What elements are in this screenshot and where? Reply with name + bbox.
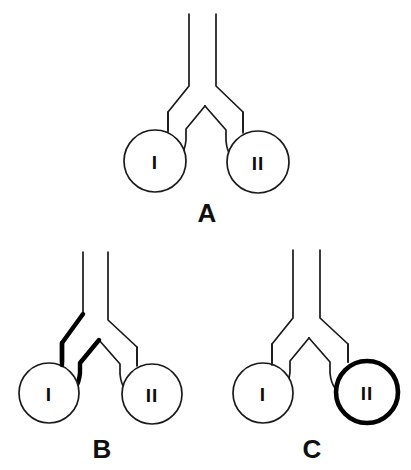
panel-a-label: A: [198, 198, 217, 228]
panel-c-left-outer-wall: [272, 250, 293, 363]
diagram-canvas: I II A I II B I II C: [0, 0, 411, 470]
panel-a: I II A: [124, 14, 289, 228]
panel-a-chamber-i-label: I: [152, 152, 158, 173]
panel-c: I II C: [233, 250, 398, 464]
panel-b: I II B: [19, 252, 182, 464]
panel-a-right-outer-wall: [216, 14, 243, 131]
panel-c-chamber-ii-label: II: [361, 383, 374, 404]
panel-a-left-inner-wall: [181, 106, 205, 155]
panel-c-right-outer-wall: [320, 250, 348, 362]
panel-b-chamber-ii-label: II: [146, 385, 159, 406]
panel-c-label: C: [303, 434, 322, 464]
panel-a-chamber-ii-label: II: [252, 153, 265, 174]
panel-b-left-inner-wall-highlighted: [75, 340, 99, 388]
panel-a-left-outer-wall: [168, 14, 189, 130]
panel-b-right-inner-wall: [99, 340, 125, 389]
panel-b-right-outer-wall: [108, 252, 137, 365]
panel-b-chamber-i-label: I: [46, 384, 52, 405]
panel-a-right-inner-wall: [205, 106, 231, 156]
panel-b-left-outer-wall-highlighted: [62, 314, 83, 362]
panel-c-right-inner-wall: [309, 338, 335, 388]
panel-b-label: B: [93, 434, 112, 464]
panel-c-chamber-i-label: I: [260, 384, 266, 405]
